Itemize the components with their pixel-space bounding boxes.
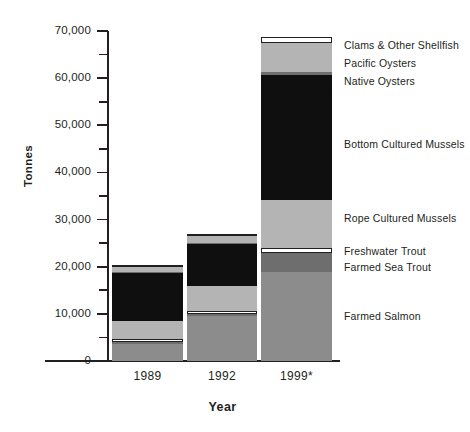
y-tick-minor — [99, 242, 108, 244]
legend-item: Clams & Other Shellfish — [344, 40, 459, 52]
y-tick-major — [97, 219, 108, 221]
bar-segment[interactable] — [261, 37, 332, 43]
y-tick-label: 50,000 — [33, 119, 91, 131]
bar-1989[interactable] — [112, 0, 183, 432]
y-tick-minor — [99, 195, 108, 197]
y-axis-title: Tonnes — [22, 126, 34, 206]
bar-segment[interactable] — [261, 272, 332, 361]
bar-segment[interactable] — [187, 311, 257, 314]
y-tick-major — [97, 360, 108, 362]
bar-segment[interactable] — [187, 235, 257, 243]
chart-root: 010,00020,00030,00040,00050,00060,00070,… — [0, 0, 470, 432]
y-tick-label: 20,000 — [33, 261, 91, 273]
bar-segment[interactable] — [112, 339, 183, 342]
bar-segment[interactable] — [187, 234, 257, 236]
y-tick-minor — [99, 337, 108, 339]
legend-item: Freshwater Trout — [344, 246, 426, 258]
y-tick-major — [97, 30, 108, 32]
y-tick-major — [97, 313, 108, 315]
bar-segment[interactable] — [187, 286, 257, 311]
legend-item: Farmed Sea Trout — [344, 262, 431, 274]
bar-segment[interactable] — [261, 75, 332, 200]
x-axis-title: Year — [110, 400, 335, 414]
y-tick-major — [97, 172, 108, 174]
legend-item: Rope Cultured Mussels — [344, 213, 456, 225]
bar-1999[interactable] — [261, 0, 332, 432]
x-tick-label: 1992 — [187, 369, 257, 383]
bar-segment[interactable] — [187, 243, 257, 244]
bar-segment[interactable] — [261, 248, 332, 253]
y-tick-major — [97, 124, 108, 126]
bar-segment[interactable] — [112, 321, 183, 339]
bar-segment[interactable] — [261, 43, 332, 72]
x-tick-label: 1999* — [261, 369, 332, 383]
y-tick-major — [97, 77, 108, 79]
y-tick-minor — [99, 54, 108, 56]
bar-segment[interactable] — [112, 272, 183, 273]
y-tick-label: 70,000 — [33, 25, 91, 37]
y-tick-label: 40,000 — [33, 166, 91, 178]
legend-item: Bottom Cultured Mussels — [344, 139, 465, 151]
y-tick-minor — [99, 148, 108, 150]
bar-segment[interactable] — [261, 72, 332, 75]
bar-1992[interactable] — [187, 0, 257, 432]
y-tick-label: 10,000 — [33, 308, 91, 320]
bar-segment[interactable] — [112, 342, 183, 344]
y-tick-minor — [99, 101, 108, 103]
bar-segment[interactable] — [187, 314, 257, 316]
bar-segment[interactable] — [261, 253, 332, 272]
legend-item: Pacific Oysters — [344, 58, 416, 70]
bar-segment[interactable] — [187, 316, 257, 361]
x-tick-label: 1989 — [112, 369, 183, 383]
bar-segment[interactable] — [187, 244, 257, 286]
legend-item: Farmed Salmon — [344, 311, 421, 323]
bar-segment[interactable] — [112, 344, 183, 361]
bar-segment[interactable] — [261, 200, 332, 248]
y-tick-label: 0 — [33, 355, 91, 367]
y-tick-label: 60,000 — [33, 72, 91, 84]
y-tick-major — [97, 266, 108, 268]
legend-item: Native Oysters — [344, 76, 415, 88]
bar-segment[interactable] — [112, 265, 183, 267]
y-tick-label: 30,000 — [33, 214, 91, 226]
y-tick-minor — [99, 289, 108, 291]
bar-segment[interactable] — [112, 273, 183, 321]
